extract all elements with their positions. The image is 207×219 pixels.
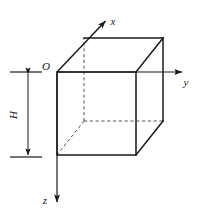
cube-coordinate-diagram: O x y z H [0,0,207,219]
hidden-edge-bottom-left-diagonal [57,121,84,155]
cube-front-face-edges [57,72,136,155]
figure-canvas: O x y z H [0,0,207,219]
y-axis-label: y [183,76,189,88]
z-axis-label: z [42,194,48,206]
origin-label: O [42,60,50,72]
cube-edge-top-right-diagonal [136,38,163,72]
x-axis-label: x [110,15,116,27]
cube-edge-bottom-right-diagonal [136,121,163,155]
height-label: H [7,110,19,120]
x-axis-line [57,21,106,72]
